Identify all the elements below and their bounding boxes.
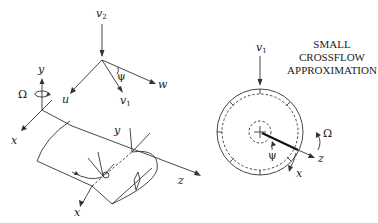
caption-line-1: SMALL <box>284 38 378 51</box>
label-right-x: x <box>296 168 302 179</box>
label-right-psi: ψ <box>268 150 277 161</box>
label-right-omega: Ω <box>323 128 332 139</box>
label-cylinder-z: z <box>178 175 184 186</box>
label-v1: v1 <box>120 95 131 108</box>
diagram-drawing <box>0 0 378 223</box>
label-v2: v2 <box>96 8 107 21</box>
label-omega-frame: Ω <box>18 89 27 100</box>
caption-small-crossflow: SMALL CROSSFLOW APPROXIMATION <box>284 38 378 77</box>
label-u: u <box>62 94 69 105</box>
caption-line-3: APPROXIMATION <box>284 64 378 77</box>
label-frame-y: y <box>38 64 44 75</box>
label-w: w <box>158 79 167 90</box>
label-cylinder-y: y <box>114 125 120 136</box>
label-cylinder-x: x <box>74 207 80 218</box>
label-right-z: z <box>318 153 324 164</box>
velocity-triad <box>70 24 156 94</box>
label-psi-triad: ψ <box>117 71 126 82</box>
caption-line-2: CROSSFLOW <box>284 51 378 64</box>
label-right-v1: v1 <box>256 42 267 55</box>
label-frame-x: x <box>11 135 17 146</box>
